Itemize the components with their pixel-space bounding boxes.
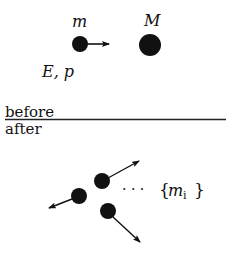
ellipsis: · · · <box>122 181 144 197</box>
projectile-particle <box>72 36 88 52</box>
product-momentum-arrow <box>113 217 140 242</box>
after-section: after · · · { m i } <box>5 120 205 242</box>
product-particle-3 <box>100 203 140 242</box>
energy-momentum-label: E, p <box>41 62 74 81</box>
target-particle <box>139 34 161 56</box>
before-label: before <box>5 103 54 121</box>
collision-diagram: m E, p M before after · · · { m i } <box>0 0 242 260</box>
product-particle-dot <box>94 173 110 189</box>
products-mass-var: m <box>168 181 183 200</box>
product-momentum-arrow <box>49 199 72 208</box>
projectile-mass-label: m <box>72 12 87 31</box>
product-particle-dot <box>71 188 87 204</box>
product-particle-dot <box>100 203 116 219</box>
product-particle-2 <box>49 188 87 208</box>
products-set-label: { m i } <box>159 180 205 202</box>
target-mass-label: M <box>143 11 161 30</box>
products-mass-subscript: i <box>183 189 187 202</box>
before-section: m E, p M before <box>5 11 161 121</box>
product-momentum-arrow <box>108 161 139 178</box>
after-label: after <box>5 120 42 138</box>
set-close-brace: } <box>194 180 205 200</box>
